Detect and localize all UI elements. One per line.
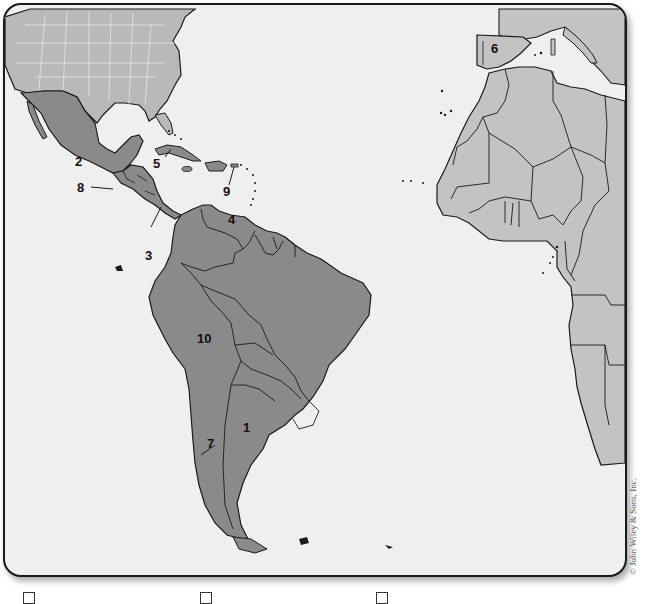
copyright-notice: © John Wiley & Sons, Inc.	[628, 465, 642, 575]
map-label-2: 2	[75, 155, 82, 168]
map-label-5: 5	[153, 157, 160, 170]
map-label-1: 1	[243, 421, 250, 434]
map-label-7: 7	[207, 437, 214, 450]
region-south-america	[149, 205, 371, 541]
map-frame: 1 2 3 4 5 6 7 8 9 10	[3, 3, 627, 577]
map-label-6: 6	[491, 42, 498, 55]
answer-checkbox-3[interactable]	[376, 592, 388, 604]
region-cuba	[155, 145, 201, 161]
map-label-9: 9	[223, 185, 230, 198]
answer-checkbox-2[interactable]	[200, 592, 212, 604]
region-africa	[437, 67, 625, 465]
map-label-10: 10	[197, 332, 211, 345]
map-label-4: 4	[228, 213, 235, 226]
copyright-text: © John Wiley & Sons, Inc.	[628, 478, 638, 575]
map-svg	[5, 5, 625, 575]
answer-legend	[0, 592, 647, 601]
map-label-8: 8	[77, 181, 84, 194]
map-label-3: 3	[145, 249, 152, 262]
answer-checkbox-1[interactable]	[23, 592, 35, 604]
region-spain	[477, 35, 531, 69]
